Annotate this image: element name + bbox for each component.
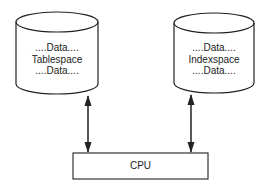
indexspace-cpu-arrow <box>188 94 195 153</box>
indexspace-label: ....Data.... Indexspace ....Data.... <box>174 42 254 77</box>
tablespace-line-3: ....Data.... <box>16 65 98 77</box>
tablespace-label: ....Data.... Tablespace ....Data.... <box>16 42 98 77</box>
cpu-label: CPU <box>73 160 208 171</box>
tablespace-line-1: ....Data.... <box>16 42 98 54</box>
indexspace-line-1: ....Data.... <box>174 42 254 54</box>
tablespace-cpu-arrow <box>85 95 92 153</box>
diagram-canvas <box>0 0 271 187</box>
indexspace-line-2: Indexspace <box>174 54 254 66</box>
tablespace-line-2: Tablespace <box>16 54 98 66</box>
indexspace-line-3: ....Data.... <box>174 65 254 77</box>
